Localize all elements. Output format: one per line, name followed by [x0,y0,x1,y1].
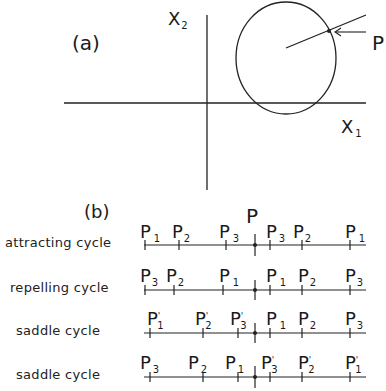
x2-axis-label: X2 [168,8,188,31]
point-p-dot [327,29,331,33]
svg-text:P1: P1 [266,265,286,288]
svg-text:P1: P1 [266,308,286,331]
row-4-point-labels: P3 P2 P1 P'3 P'2 P'1 [140,352,362,375]
svg-text:P1: P1 [219,265,239,288]
svg-text:P'2: P'2 [195,308,212,331]
limit-cycle-circle [236,2,336,114]
row-2-point-labels: P3 P2 P1 P1 P2 P3 [140,265,363,288]
svg-text:P2: P2 [298,308,316,331]
svg-text:P2: P2 [298,265,316,288]
svg-text:P1: P1 [345,221,365,244]
center-p-label: P [246,204,258,228]
svg-text:P1: P1 [140,221,160,244]
svg-text:P1: P1 [225,352,244,375]
svg-text:P2: P2 [172,221,190,244]
point-p-label: P [372,31,384,55]
row-label-repelling: repelling cycle [10,280,109,295]
svg-text:P'3: P'3 [261,352,278,375]
svg-text:P3: P3 [140,352,159,375]
svg-text:P'3: P'3 [230,308,247,331]
x1-axis-label: X1 [341,116,362,139]
svg-text:P3: P3 [266,221,285,244]
svg-text:P2: P2 [166,265,184,288]
svg-text:P2: P2 [293,221,311,244]
svg-text:P3: P3 [140,265,158,288]
panel-a-label: (a) [72,31,100,55]
svg-text:P'2: P'2 [298,352,315,375]
panel-b-label: (b) [84,201,109,222]
row-label-attracting: attracting cycle [5,235,111,250]
svg-text:P'1: P'1 [345,352,362,375]
svg-text:P'1: P'1 [147,308,164,331]
svg-text:P3: P3 [345,308,363,331]
row-label-saddle-2: saddle cycle [16,367,100,382]
svg-text:P2: P2 [188,352,207,375]
svg-text:P3: P3 [219,221,239,244]
row-label-saddle-1: saddle cycle [16,323,100,338]
svg-text:P3: P3 [345,265,363,288]
